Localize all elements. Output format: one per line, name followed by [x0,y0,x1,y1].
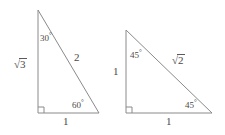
45-45-90-triangle [126,30,212,113]
left-vertical-leg-label-radical: √3 [14,58,27,70]
left-base-label-text: 1 [63,115,69,127]
degree-symbol-icon: ° [139,48,142,56]
left-vertical-leg-label: √3 [14,58,27,70]
left-apex-angle-label: 30° [40,32,52,43]
left-hypotenuse-label: 2 [74,52,80,63]
special-right-triangles-figure: √32130°60°1√2145°45° [0,0,225,135]
left-base-angle-label: 60° [72,99,84,110]
right-vertical-leg-label: 1 [113,66,119,77]
right-hypotenuse-label-radicand: 2 [177,54,185,66]
left-hypotenuse-label-text: 2 [74,51,80,63]
right-base-label: 1 [166,116,172,127]
right-base-label-text: 1 [166,115,172,127]
left-vertical-leg-label-radicand: 3 [19,58,27,70]
degree-symbol-icon: ° [49,31,52,39]
degree-symbol-icon: ° [194,98,197,106]
right-apex-angle-label-text: 45 [130,50,139,60]
degree-symbol-icon: ° [81,98,84,106]
right-base-angle-label-text: 45 [185,100,194,110]
right-hypotenuse-label: √2 [172,54,185,66]
right-base-angle-label: 45° [185,99,197,110]
left-apex-angle-label-text: 30 [40,33,49,43]
right-hypotenuse-label-radical: √2 [172,54,185,66]
30-60-90-triangle-right-angle-marker [38,107,44,113]
30-60-90-triangle [38,10,99,113]
45-45-90-triangle-right-angle-marker [126,107,132,113]
left-base-label: 1 [63,116,69,127]
left-base-angle-label-text: 60 [72,100,81,110]
right-vertical-leg-label-text: 1 [113,65,119,77]
right-apex-angle-label: 45° [130,49,142,60]
